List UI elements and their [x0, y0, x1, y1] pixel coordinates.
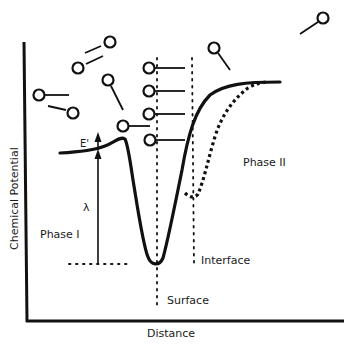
molecule-icon — [145, 135, 186, 146]
interface-label: Interface — [201, 254, 250, 267]
y-axis-label: Chemical Potential — [8, 147, 21, 250]
molecule-icon — [85, 37, 116, 54]
well-depth-label: λ — [83, 201, 90, 214]
molecule-icon — [144, 63, 186, 74]
molecule-icon — [144, 109, 186, 120]
chemical-potential-diagram: Chemical Potential Distance E' λ Phase I… — [0, 0, 352, 350]
adsorbed-molecules — [144, 63, 186, 146]
phase1-label: Phase I — [40, 228, 80, 241]
surface-label: Surface — [167, 294, 209, 307]
axes — [24, 42, 344, 322]
y-axis — [24, 42, 27, 322]
molecule-icon — [73, 56, 104, 74]
solid-potential-curve — [60, 82, 280, 264]
molecule-icon — [300, 13, 329, 35]
molecule-icon — [34, 90, 70, 101]
molecule-icon — [209, 43, 231, 71]
phase2-label: Phase II — [243, 156, 286, 169]
molecule-icon — [103, 75, 124, 111]
lambda-arrow — [95, 149, 102, 264]
energy-barrier-label: E' — [80, 138, 89, 149]
molecule-icon — [48, 106, 79, 119]
interface-line — [192, 58, 194, 264]
x-axis-label: Distance — [147, 327, 195, 340]
molecule-icon — [118, 121, 151, 132]
dotted-potential-curve — [185, 82, 268, 197]
molecule-icon — [144, 86, 186, 97]
